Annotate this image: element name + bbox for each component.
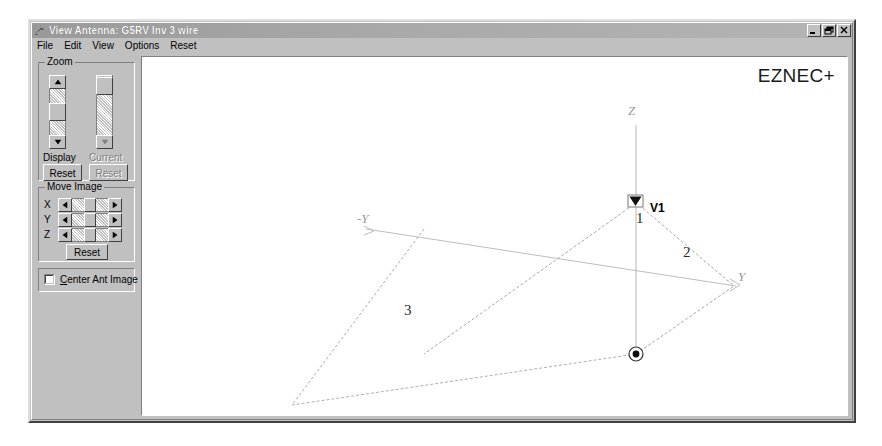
move-y-label: Y — [44, 214, 51, 226]
title-bar[interactable]: View Antenna: G5RV Inv 3 wire — [32, 23, 852, 38]
move-x-scrollbar[interactable] — [58, 198, 122, 212]
control-panel: Zoom Display Reset — [36, 56, 138, 416]
move-x-left-button[interactable] — [58, 198, 72, 212]
move-x-label: X — [44, 199, 51, 211]
wire-3-lower-line[interactable] — [292, 354, 636, 405]
view-antenna-window: View Antenna: G5RV Inv 3 wire File Edit … — [28, 19, 856, 423]
wire-2-lower-line[interactable] — [636, 286, 734, 354]
current-zoom-scrollbar — [96, 75, 113, 149]
zoom-group-title: Zoom — [45, 57, 75, 67]
current-label: Current — [89, 152, 122, 163]
center-ant-image-checkbox[interactable] — [44, 274, 55, 285]
window-title: View Antenna: G5RV Inv 3 wire — [49, 25, 807, 36]
antenna-view-canvas[interactable]: EZNEC+ — [141, 56, 848, 416]
move-x-thumb[interactable] — [84, 198, 96, 212]
center-ant-image-row[interactable]: Center Ant Image — [44, 274, 138, 285]
close-button[interactable] — [837, 24, 851, 37]
display-zoom-down-button[interactable] — [49, 135, 66, 149]
move-z-thumb[interactable] — [84, 228, 96, 242]
display-zoom-scrollbar[interactable] — [49, 75, 66, 149]
restore-button[interactable] — [822, 24, 836, 37]
y-axis-line — [366, 229, 736, 286]
source-label-v1: V1 — [650, 201, 665, 215]
display-reset-button[interactable]: Reset — [43, 164, 82, 181]
current-zoom-trough — [96, 89, 113, 135]
display-label: Display — [43, 152, 76, 163]
current-zoom-down-button — [96, 135, 113, 149]
wire-2-label: 2 — [683, 244, 691, 260]
z-axis-label: Z — [628, 103, 636, 118]
move-y-scrollbar[interactable] — [58, 213, 122, 227]
display-zoom-thumb[interactable] — [49, 103, 66, 121]
move-z-left-button[interactable] — [58, 228, 72, 242]
center-ant-image-label: Center Ant Image — [60, 274, 138, 285]
client-area: Zoom Display Reset — [33, 54, 851, 418]
wire-1-line[interactable] — [424, 205, 633, 354]
move-z-scrollbar[interactable] — [58, 228, 122, 242]
antenna-icon — [34, 25, 46, 37]
minimize-button[interactable] — [807, 24, 821, 37]
move-image-group: Move Image X Y — [38, 187, 135, 262]
move-z-label: Z — [44, 229, 50, 241]
antenna-plot: Z -Y Y V1 1 2 3 — [142, 57, 848, 416]
menu-bar: File Edit View Options Reset — [32, 39, 852, 53]
menu-item-view[interactable]: View — [92, 40, 114, 52]
zoom-group: Zoom Display Reset — [38, 62, 135, 181]
move-y-right-button[interactable] — [108, 213, 122, 227]
current-zoom-thumb — [96, 77, 113, 95]
move-image-group-title: Move Image — [45, 182, 104, 192]
menu-item-options[interactable]: Options — [125, 40, 159, 52]
move-image-reset-button[interactable]: Reset — [66, 244, 108, 260]
current-reset-button: Reset — [89, 164, 128, 181]
center-ant-image-group: Center Ant Image — [38, 268, 135, 292]
display-zoom-up-button[interactable] — [49, 75, 66, 89]
accel-rest: enter Ant Image — [67, 274, 138, 285]
neg-y-axis-label: -Y — [357, 211, 370, 226]
menu-item-file[interactable]: File — [37, 40, 53, 52]
wire-3-label: 3 — [404, 302, 412, 318]
coordinate-origin-marker — [629, 347, 643, 361]
move-y-left-button[interactable] — [58, 213, 72, 227]
move-x-right-button[interactable] — [108, 198, 122, 212]
voltage-source-marker[interactable] — [628, 195, 643, 207]
move-z-right-button[interactable] — [108, 228, 122, 242]
wire-1-label: 1 — [636, 210, 644, 226]
menu-item-edit[interactable]: Edit — [64, 40, 81, 52]
move-y-thumb[interactable] — [84, 213, 96, 227]
neg-y-axis-tick — [364, 226, 374, 235]
y-axis-label: Y — [738, 269, 747, 284]
menu-item-reset[interactable]: Reset — [170, 40, 196, 52]
